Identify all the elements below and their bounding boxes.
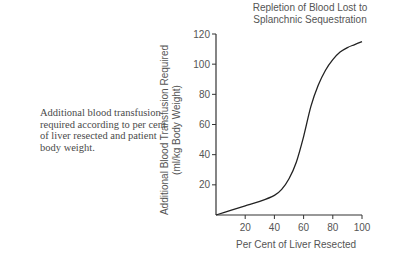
y-tick-label: 100 bbox=[193, 59, 210, 70]
data-series-line bbox=[216, 42, 362, 215]
y-tick-label: 60 bbox=[199, 119, 211, 130]
x-tick-label: 80 bbox=[327, 222, 339, 233]
x-tick-label: 60 bbox=[298, 222, 310, 233]
x-tick-label: 20 bbox=[240, 222, 252, 233]
y-tick-label: 80 bbox=[199, 89, 211, 100]
x-tick-label: 100 bbox=[354, 222, 371, 233]
chart-plot: 2040608010012020406080100 bbox=[0, 0, 395, 260]
y-tick-label: 120 bbox=[193, 29, 210, 40]
y-tick-label: 40 bbox=[199, 149, 211, 160]
x-tick-label: 40 bbox=[269, 222, 281, 233]
y-tick-label: 20 bbox=[199, 179, 211, 190]
